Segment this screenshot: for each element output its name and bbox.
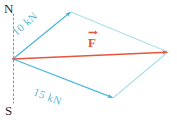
force-parallelogram-diagram: N S 10 kN 15 kN F: [0, 0, 177, 124]
north-label: N: [4, 2, 14, 15]
resultant-force-letter: F: [88, 35, 96, 50]
vector-overbar-arrow-icon: [88, 30, 98, 35]
vector-15kn-arrow: [13, 59, 112, 97]
parallelogram-side-bottom-right: [113, 52, 168, 98]
south-label: S: [5, 104, 13, 117]
parallelogram-side-top-right: [71, 12, 168, 52]
vector-resultant-arrow: [13, 52, 167, 59]
resultant-force-label: F: [88, 36, 96, 49]
